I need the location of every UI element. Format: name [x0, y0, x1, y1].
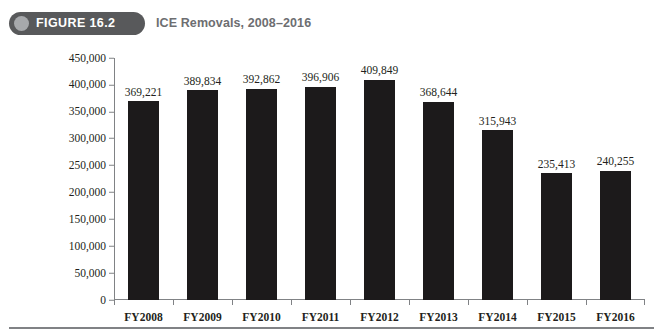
x-axis-tick-mark	[468, 300, 469, 305]
figure-container: FIGURE 16.2 ICE Removals, 2008–2016 050,…	[0, 0, 663, 335]
x-axis-tick-mark	[114, 300, 115, 305]
x-axis-label: FY2010	[232, 312, 291, 324]
x-axis-tick-mark	[291, 300, 292, 305]
y-axis-tick-label: 100,000	[69, 240, 106, 252]
y-axis-tick: 100,000	[69, 240, 114, 252]
bar-chart: 050,000100,000150,000200,000250,000300,0…	[0, 46, 663, 314]
figure-number-label: FIGURE 16.2	[36, 16, 115, 30]
y-axis-tick: 300,000	[69, 133, 114, 145]
bar[interactable]: 235,413	[541, 173, 572, 300]
y-axis-tick-label: 200,000	[69, 187, 106, 199]
x-axis-label: FY2011	[291, 312, 350, 324]
x-axis-tick-mark	[232, 300, 233, 305]
bar-slot: 396,906	[291, 58, 350, 300]
bar-value-label: 396,906	[302, 72, 339, 84]
x-axis-labels: FY2008FY2009FY2010FY2011FY2012FY2013FY20…	[114, 312, 645, 324]
figure-number-badge: FIGURE 16.2	[9, 12, 145, 35]
bar-slot: 368,644	[409, 58, 468, 300]
bar-value-label: 389,834	[184, 76, 221, 88]
bar-slot: 389,834	[173, 58, 232, 300]
bar-slot: 392,862	[232, 58, 291, 300]
bar[interactable]: 389,834	[187, 90, 218, 300]
figure-header: FIGURE 16.2 ICE Removals, 2008–2016	[0, 0, 663, 46]
x-axis-tick-mark	[586, 300, 587, 305]
y-axis-tick-label: 50,000	[74, 267, 106, 279]
y-axis-tick: 400,000	[69, 79, 114, 91]
bar-value-label: 369,221	[125, 87, 162, 99]
circle-icon	[14, 16, 29, 31]
y-axis-tick-label: 400,000	[69, 79, 106, 91]
x-axis-label: FY2008	[114, 312, 173, 324]
bar[interactable]: 315,943	[482, 130, 513, 300]
x-axis-label: FY2016	[586, 312, 645, 324]
bar-value-label: 315,943	[479, 116, 516, 128]
bar[interactable]: 368,644	[423, 102, 454, 300]
x-axis-label: FY2013	[409, 312, 468, 324]
bar-slot: 409,849	[350, 58, 409, 300]
y-axis-tick-label: 150,000	[69, 214, 106, 226]
y-axis-tick: 250,000	[69, 160, 114, 172]
x-axis-tick-mark	[350, 300, 351, 305]
x-axis-label: FY2014	[468, 312, 527, 324]
bar-slot: 369,221	[114, 58, 173, 300]
bar-series: 369,221389,834392,862396,906409,849368,6…	[114, 58, 645, 300]
x-axis-label: FY2009	[173, 312, 232, 324]
bar-value-label: 240,255	[597, 156, 634, 168]
y-axis-tick: 0	[100, 294, 114, 306]
bar[interactable]: 409,849	[364, 80, 395, 300]
bar-value-label: 392,862	[243, 74, 280, 86]
bar-value-label: 368,644	[420, 87, 457, 99]
x-axis-tick-mark	[644, 300, 645, 305]
x-axis-label: FY2015	[527, 312, 586, 324]
bar-slot: 240,255	[586, 58, 645, 300]
bar[interactable]: 369,221	[128, 101, 159, 300]
bar-value-label: 409,849	[361, 65, 398, 77]
x-axis-label: FY2012	[350, 312, 409, 324]
figure-title: ICE Removals, 2008–2016	[156, 16, 311, 30]
bar-slot: 235,413	[527, 58, 586, 300]
y-axis-tick-label: 450,000	[69, 52, 106, 64]
bar-slot: 315,943	[468, 58, 527, 300]
bar[interactable]: 396,906	[305, 87, 336, 300]
y-axis-tick-label: 250,000	[69, 160, 106, 172]
bar[interactable]: 240,255	[600, 171, 631, 300]
y-axis-tick-label: 350,000	[69, 106, 106, 118]
y-axis-tick-label: 300,000	[69, 133, 106, 145]
y-axis-tick: 200,000	[69, 187, 114, 199]
y-axis-tick: 450,000	[69, 52, 114, 64]
bar-value-label: 235,413	[538, 159, 575, 171]
plot-area: 050,000100,000150,000200,000250,000300,0…	[114, 58, 645, 300]
figure-bottom-rule	[9, 327, 654, 329]
x-axis-tick-mark	[409, 300, 410, 305]
y-axis-tick: 150,000	[69, 214, 114, 226]
bar[interactable]: 392,862	[246, 89, 277, 300]
y-axis-tick-label: 0	[100, 294, 106, 306]
x-axis-tick-mark	[527, 300, 528, 305]
y-axis-tick: 50,000	[74, 267, 114, 279]
y-axis-tick: 350,000	[69, 106, 114, 118]
x-axis-tick-mark	[173, 300, 174, 305]
